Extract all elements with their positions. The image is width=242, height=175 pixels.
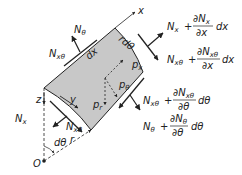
svg-text:∂Nxθ: ∂Nxθ xyxy=(173,87,195,100)
nx-plus-arrow xyxy=(148,33,163,46)
radius-line xyxy=(44,130,91,161)
ntheta-plus-expression: Nθ + ∂Nθ ∂θ dθ xyxy=(143,113,203,138)
dtheta-arc xyxy=(44,146,54,153)
svg-text:∂θ: ∂θ xyxy=(178,101,189,112)
ntheta-arrow xyxy=(72,36,80,52)
svg-text:+: + xyxy=(160,121,168,132)
nx-plus-expression: Nx + ∂Nx ∂x dx xyxy=(167,13,228,38)
nx-label: Nx xyxy=(15,113,27,126)
nx-arrow xyxy=(53,116,67,127)
svg-text:dθ: dθ xyxy=(198,95,210,106)
svg-text:Nxθ: Nxθ xyxy=(167,54,184,67)
origin-label: O xyxy=(33,158,41,169)
svg-text:∂θ: ∂θ xyxy=(172,127,183,138)
svg-text:+: + xyxy=(184,21,192,32)
z-axis-label: z xyxy=(35,94,42,105)
nxtheta-top-label: Nxθ xyxy=(49,48,66,61)
diagram-canvas: x z y O dx rdθ px pθ pr dθ r Nθ Nxθ Nx N… xyxy=(0,0,242,175)
nxtheta-bottom-label: Nxθ xyxy=(66,121,83,134)
x-axis-label: x xyxy=(137,5,144,16)
origin-point xyxy=(42,159,46,163)
ntheta-plus-arrow xyxy=(130,95,140,110)
shell-element-diagram: x z y O dx rdθ px pθ pr dθ r Nθ Nxθ Nx N… xyxy=(0,0,242,175)
r-label: r xyxy=(70,134,75,145)
svg-text:Nθ: Nθ xyxy=(143,121,155,134)
nxtheta-plus-x-expression: Nxθ + ∂Nxθ ∂x dx xyxy=(167,46,234,71)
right-edge-shear-bar xyxy=(138,34,158,60)
svg-text:dx: dx xyxy=(216,21,228,32)
svg-text:∂x: ∂x xyxy=(202,60,213,71)
svg-text:Nxθ: Nxθ xyxy=(143,95,160,108)
svg-text:dθ: dθ xyxy=(191,121,203,132)
dtheta-label: dθ xyxy=(54,137,66,148)
ntheta-label: Nθ xyxy=(74,24,86,37)
x-axis-arrow xyxy=(115,12,135,28)
svg-text:+: + xyxy=(188,54,196,65)
y-axis-label: y xyxy=(69,94,77,105)
svg-text:+: + xyxy=(164,95,172,106)
svg-text:Nx: Nx xyxy=(167,21,179,34)
svg-text:∂Nxθ: ∂Nxθ xyxy=(197,46,219,59)
svg-text:∂Nx: ∂Nx xyxy=(193,13,211,26)
svg-text:∂Nθ: ∂Nθ xyxy=(170,113,188,126)
svg-text:∂x: ∂x xyxy=(196,27,207,38)
svg-text:dx: dx xyxy=(222,54,234,65)
nxtheta-plus-theta-expression: Nxθ + ∂Nxθ ∂θ dθ xyxy=(143,87,210,112)
